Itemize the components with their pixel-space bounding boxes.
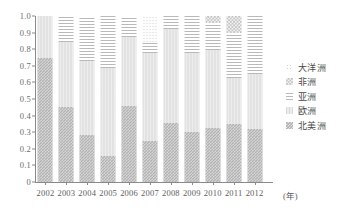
y-axis-tick-mark	[32, 165, 35, 166]
x-axis-tick-label: 2007	[141, 188, 159, 198]
bar-segment-亚洲[interactable]	[80, 16, 95, 61]
legend-swatch-icon	[286, 93, 293, 100]
y-axis-tick-mark	[32, 99, 35, 100]
bar-segment-欧洲[interactable]	[38, 16, 53, 58]
x-axis-tick-label: 2011	[225, 188, 243, 198]
legend-item-label: 大洋洲	[298, 61, 326, 74]
x-axis-tick-mark	[45, 182, 46, 185]
x-axis-tick-label: 2004	[78, 188, 96, 198]
bar-segment-北美洲[interactable]	[184, 132, 199, 182]
bar-segment-欧洲[interactable]	[122, 37, 137, 107]
y-axis-tick-mark	[32, 132, 35, 133]
chart-root: 1.00.90.80.70.60.50.40.30.20.10 20022003…	[0, 0, 338, 211]
bar-segment-亚洲[interactable]	[143, 43, 158, 53]
x-axis-tick-label: 2005	[99, 188, 117, 198]
bar-segment-北美洲[interactable]	[205, 128, 220, 182]
x-axis-tick-mark	[171, 182, 172, 185]
x-axis-tick-mark	[234, 182, 235, 185]
legend-swatch-icon	[286, 64, 293, 71]
y-axis-tick-mark	[32, 49, 35, 50]
bar-segment-亚洲[interactable]	[247, 16, 262, 74]
x-axis-tick-label: 2003	[57, 188, 75, 198]
x-axis-tick-mark	[150, 182, 151, 185]
x-axis-tick-mark	[213, 182, 214, 185]
legend-item-label: 亚洲	[298, 90, 317, 103]
bar-segment-亚洲[interactable]	[205, 23, 220, 50]
bar-2003[interactable]	[59, 16, 74, 182]
bar-2011[interactable]	[226, 16, 241, 182]
x-axis-tick-label: 2002	[37, 188, 55, 198]
bar-segment-欧洲[interactable]	[247, 74, 262, 129]
y-axis-tick-mark	[32, 82, 35, 83]
x-axis-tick-label: 2009	[183, 188, 201, 198]
y-axis-tick-mark	[32, 148, 35, 149]
bar-segment-非洲[interactable]	[205, 16, 220, 23]
x-axis-tick-label: 2006	[120, 188, 138, 198]
legend-item-label: 非洲	[298, 75, 317, 88]
legend-item-欧洲[interactable]: 欧洲	[286, 104, 338, 119]
y-axis-line	[35, 16, 36, 182]
x-axis-tick-mark	[129, 182, 130, 185]
x-axis-tick-label: 2012	[246, 188, 264, 198]
x-axis-line	[35, 182, 273, 183]
bar-segment-欧洲[interactable]	[59, 42, 74, 108]
bar-2009[interactable]	[184, 16, 199, 182]
bar-segment-欧洲[interactable]	[226, 78, 241, 124]
legend-swatch-icon	[286, 107, 293, 114]
bar-segment-欧洲[interactable]	[143, 53, 158, 140]
bar-segment-亚洲[interactable]	[122, 16, 137, 37]
legend-item-亚洲[interactable]: 亚洲	[286, 89, 338, 104]
bar-2004[interactable]	[80, 16, 95, 182]
bar-segment-欧洲[interactable]	[163, 29, 178, 123]
plot-area: 1.00.90.80.70.60.50.40.30.20.10 20022003…	[35, 16, 265, 182]
bar-2002[interactable]	[38, 16, 53, 182]
bar-2006[interactable]	[122, 16, 137, 182]
bar-segment-亚洲[interactable]	[226, 33, 241, 78]
legend-item-北美洲[interactable]: 北美洲	[286, 118, 338, 133]
bar-segment-北美洲[interactable]	[226, 124, 241, 182]
legend-swatch-icon	[286, 78, 293, 85]
x-axis-tick-label: 2010	[204, 188, 222, 198]
x-axis-tick-label: 2008	[162, 188, 180, 198]
bar-segment-亚洲[interactable]	[59, 16, 74, 42]
bar-segment-欧洲[interactable]	[80, 61, 95, 135]
bar-segment-北美洲[interactable]	[143, 141, 158, 183]
bar-segment-亚洲[interactable]	[101, 16, 116, 68]
bar-2008[interactable]	[163, 16, 178, 182]
y-axis-tick-mark	[32, 115, 35, 116]
chart-legend: 大洋洲非洲亚洲欧洲北美洲	[286, 60, 338, 133]
bar-2012[interactable]	[247, 16, 262, 182]
bar-segment-亚洲[interactable]	[163, 16, 178, 29]
legend-swatch-icon	[286, 122, 293, 129]
bar-segment-欧洲[interactable]	[101, 68, 116, 156]
bar-segment-欧洲[interactable]	[184, 53, 199, 133]
bar-segment-北美洲[interactable]	[247, 129, 262, 182]
bar-segment-欧洲[interactable]	[205, 50, 220, 128]
x-axis-title: (年)	[283, 189, 298, 201]
y-axis-tick-mark	[32, 65, 35, 66]
legend-item-非洲[interactable]: 非洲	[286, 75, 338, 90]
legend-item-大洋洲[interactable]: 大洋洲	[286, 60, 338, 75]
y-axis-tick-mark	[32, 32, 35, 33]
bar-segment-北美洲[interactable]	[38, 58, 53, 183]
x-axis-tick-mark	[87, 182, 88, 185]
bar-2010[interactable]	[205, 16, 220, 182]
x-axis-tick-mark	[255, 182, 256, 185]
y-axis-tick-mark	[32, 182, 35, 183]
bar-segment-非洲[interactable]	[226, 16, 241, 33]
bar-segment-亚洲[interactable]	[184, 16, 199, 53]
bar-segment-大洋洲[interactable]	[143, 16, 158, 43]
bar-segment-北美洲[interactable]	[101, 156, 116, 182]
y-axis-tick-mark	[32, 16, 35, 17]
legend-item-label: 欧洲	[298, 104, 317, 117]
x-axis-tick-mark	[108, 182, 109, 185]
x-axis-tick-mark	[192, 182, 193, 185]
bar-segment-北美洲[interactable]	[122, 106, 137, 182]
bar-2007[interactable]	[143, 16, 158, 182]
x-axis-tick-mark	[66, 182, 67, 185]
legend-item-label: 北美洲	[298, 119, 326, 132]
bar-segment-北美洲[interactable]	[80, 135, 95, 182]
bar-segment-北美洲[interactable]	[163, 123, 178, 182]
bar-segment-北美洲[interactable]	[59, 107, 74, 182]
bar-2005[interactable]	[101, 16, 116, 182]
